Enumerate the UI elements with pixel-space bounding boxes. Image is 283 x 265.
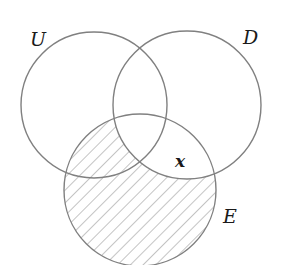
venn-diagram: U D E x xyxy=(0,0,283,265)
label-e: E xyxy=(222,205,237,227)
label-x: x xyxy=(174,151,186,171)
label-u: U xyxy=(30,28,47,50)
label-d: D xyxy=(242,26,258,48)
